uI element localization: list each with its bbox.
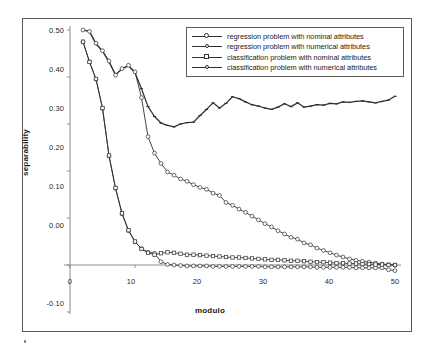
legend-label-regression-nominal: regression problem with nominal attribut… <box>227 32 364 41</box>
xtick-label-3: 30 <box>253 277 273 286</box>
legend-item-regression-numerical[interactable]: regression problem with numerical attrib… <box>187 42 403 53</box>
legend-item-classification-nominal[interactable]: classification problem with nominal attr… <box>187 52 403 63</box>
scan-speck <box>24 340 26 343</box>
xtick-label-1: 10 <box>121 277 141 286</box>
legend-item-classification-numerical[interactable]: classification problem with numerical at… <box>187 63 403 74</box>
ytick-label-2: 0.30 <box>34 104 64 113</box>
chart-legend: regression problem with nominal attribut… <box>186 27 404 77</box>
legend-marker-square-icon <box>192 52 222 62</box>
ytick-label-5: 0.00 <box>34 221 64 230</box>
ytick-label-3: 0.20 <box>34 143 64 152</box>
figure-canvas: 0.50 0.40 0.30 0.20 0.10 0.00 -0.10 0 10… <box>0 0 429 348</box>
xtick-label-5: 50 <box>385 277 405 286</box>
xtick-label-4: 40 <box>319 277 339 286</box>
legend-label-classification-numerical: classification problem with numerical at… <box>227 63 377 72</box>
ytick-label-4: 0.10 <box>34 182 64 191</box>
x-axis-title: modulo <box>150 306 270 315</box>
ytick-label-1: 0.40 <box>34 65 64 74</box>
legend-label-classification-nominal: classification problem with nominal attr… <box>227 53 371 62</box>
ytick-label-0: 0.50 <box>34 26 64 35</box>
legend-marker-circle-icon <box>192 31 222 41</box>
ytick-label-6: -0.10 <box>31 299 64 308</box>
legend-label-regression-numerical: regression problem with numerical attrib… <box>227 42 370 51</box>
legend-marker-dot2-icon <box>192 63 222 73</box>
y-axis-title: separability <box>21 108 30 198</box>
legend-item-regression-nominal[interactable]: regression problem with nominal attribut… <box>187 31 403 42</box>
xtick-label-2: 20 <box>187 277 207 286</box>
legend-marker-dot-icon <box>192 42 222 52</box>
xtick-label-0: 0 <box>60 277 80 286</box>
